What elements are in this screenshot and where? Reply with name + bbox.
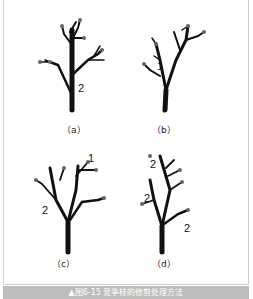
panel-a: 2 （a） <box>20 10 130 140</box>
marker-2: 2 <box>42 204 48 216</box>
marker-2: 2 <box>144 192 150 204</box>
panel-label-b: （b） <box>152 123 176 136</box>
panel-label-c: （c） <box>52 257 75 270</box>
panel-b: 1 （b） <box>130 10 240 140</box>
tree-illustration-a: 2 <box>20 10 130 120</box>
panel-c: 1 2 （c） <box>20 140 130 270</box>
marker-1: 1 <box>88 152 94 164</box>
tree-illustration-c: 1 2 <box>20 140 130 255</box>
figure-caption: ▲图6-15 竞争枝的修剪处理方法 <box>3 286 249 299</box>
tree-illustration-b: 1 <box>130 10 240 120</box>
tree-illustration-d: 2 2 2 <box>130 140 240 255</box>
panel-label-d: （d） <box>152 257 176 270</box>
marker-1: 1 <box>157 60 163 72</box>
panel-d: 2 2 2 （d） <box>130 140 240 270</box>
marker-2: 2 <box>184 222 190 234</box>
marker-2: 2 <box>78 82 84 94</box>
panel-label-a: （a） <box>62 123 86 136</box>
marker-2: 2 <box>150 158 156 170</box>
